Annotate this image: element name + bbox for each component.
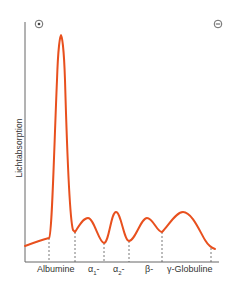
- alpha2-dash: -: [122, 264, 125, 274]
- absorption-curve: [25, 35, 215, 249]
- label-beta: β-: [145, 264, 153, 274]
- y-axis-label: Lichtabsorption: [14, 98, 26, 198]
- electrophoresis-chart: [0, 0, 237, 287]
- fraction-boundaries: [49, 232, 211, 262]
- label-gamma: γ-Globuline: [167, 264, 213, 274]
- label-alpha2: α2-: [113, 264, 125, 276]
- minus-pole-icon: [214, 20, 222, 28]
- label-alpha1: α1-: [88, 264, 100, 276]
- alpha1-dash: -: [97, 264, 100, 274]
- plus-pole-icon: [35, 20, 43, 28]
- label-albumine: Albumine: [37, 264, 75, 274]
